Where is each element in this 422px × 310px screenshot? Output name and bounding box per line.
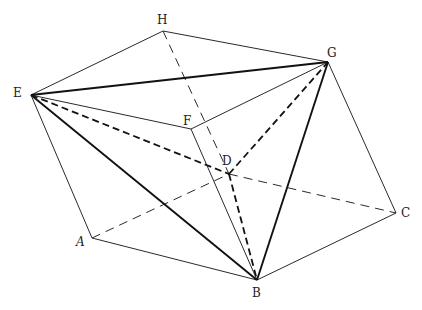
vertex-labels: A B C D E F G H bbox=[13, 13, 410, 300]
edge-ad bbox=[92, 174, 229, 238]
vertex-label-f: F bbox=[183, 114, 191, 128]
edge-eb bbox=[31, 95, 257, 280]
edge-ef bbox=[31, 95, 191, 129]
edge-cg bbox=[328, 62, 396, 213]
edge-hd bbox=[163, 31, 229, 174]
hidden-edges bbox=[92, 31, 396, 238]
edge-bc bbox=[257, 213, 396, 280]
vertex-label-c: C bbox=[401, 206, 410, 220]
vertex-label-h: H bbox=[157, 13, 167, 27]
visible-edges bbox=[31, 31, 396, 280]
vertex-label-d: D bbox=[222, 154, 232, 168]
vertex-label-a: A bbox=[75, 235, 85, 249]
vertex-label-g: G bbox=[327, 46, 337, 60]
edge-gb bbox=[257, 62, 328, 280]
edge-ed bbox=[31, 95, 229, 174]
edge-eh bbox=[31, 31, 163, 95]
polyhedron-diagram: A B C D E F G H bbox=[0, 0, 422, 310]
edge-hg bbox=[163, 31, 328, 62]
edge-eg bbox=[31, 62, 328, 95]
vertex-label-b: B bbox=[252, 286, 261, 300]
edge-dg bbox=[229, 62, 328, 174]
edge-fg bbox=[191, 62, 328, 129]
edge-fb bbox=[191, 129, 257, 280]
edge-db bbox=[229, 174, 257, 280]
edge-dc bbox=[229, 174, 396, 213]
vertex-label-e: E bbox=[13, 86, 22, 100]
